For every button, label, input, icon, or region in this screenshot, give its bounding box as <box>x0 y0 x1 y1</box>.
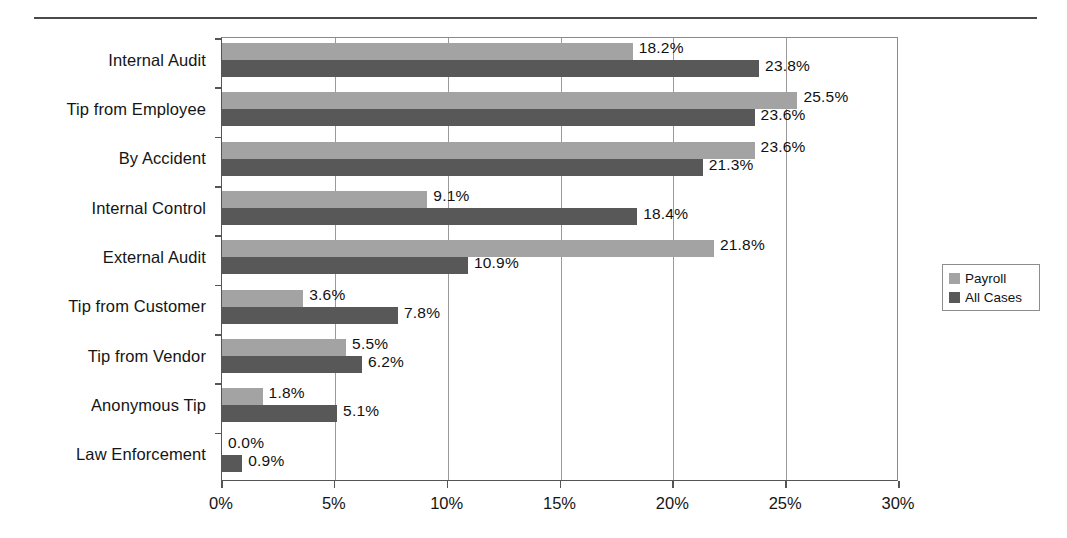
bar-all-cases <box>222 405 337 422</box>
chart-page: Internal AuditTip from EmployeeBy Accide… <box>0 0 1067 538</box>
x-axis-tick <box>898 481 900 488</box>
page-top-rule <box>34 17 1037 19</box>
bar-value-label: 18.4% <box>643 205 688 223</box>
legend-swatch-icon <box>949 273 960 284</box>
legend-swatch-icon <box>949 292 960 303</box>
bar-row: 9.1%18.4% <box>222 186 897 235</box>
x-axis-ticks <box>221 481 898 489</box>
plot-area: 18.2%23.8%25.5%23.6%23.6%21.3%9.1%18.4%2… <box>221 37 898 481</box>
legend-label: All Cases <box>965 290 1022 305</box>
bar-row: 3.6%7.8% <box>222 285 897 334</box>
bar-all-cases <box>222 208 637 225</box>
bar-value-label: 9.1% <box>433 187 469 205</box>
bar-row: 25.5%23.6% <box>222 87 897 136</box>
category-label: By Accident <box>119 149 206 168</box>
bar-value-label: 10.9% <box>474 254 519 272</box>
category-label: Law Enforcement <box>76 445 206 464</box>
x-axis-tick-label: 25% <box>769 494 802 513</box>
legend-label: Payroll <box>965 271 1006 286</box>
category-label: Anonymous Tip <box>91 396 206 415</box>
bar-rows: 18.2%23.8%25.5%23.6%23.6%21.3%9.1%18.4%2… <box>222 38 897 480</box>
bar-all-cases <box>222 356 362 373</box>
bar-value-label: 21.3% <box>709 156 754 174</box>
x-axis-tick <box>672 481 674 488</box>
category-label: Tip from Vendor <box>88 347 206 366</box>
y-axis-tick <box>215 285 222 287</box>
bar-payroll <box>222 290 303 307</box>
x-axis-tick-label: 15% <box>543 494 576 513</box>
x-axis-tick-label: 5% <box>322 494 346 513</box>
category-axis-labels: Internal AuditTip from EmployeeBy Accide… <box>0 37 214 481</box>
bar-row: 1.8%5.1% <box>222 383 897 432</box>
bar-chart: Internal AuditTip from EmployeeBy Accide… <box>0 28 1067 498</box>
bar-value-label: 3.6% <box>309 286 345 304</box>
bar-value-label: 25.5% <box>803 88 848 106</box>
bar-value-label: 0.9% <box>248 452 284 470</box>
bar-all-cases <box>222 60 759 77</box>
bar-value-label: 6.2% <box>368 353 404 371</box>
x-axis-tick <box>560 481 562 488</box>
y-axis-tick <box>215 334 222 336</box>
bar-value-label: 23.8% <box>765 57 810 75</box>
bar-value-label: 18.2% <box>639 39 684 57</box>
category-label: Internal Control <box>92 199 206 218</box>
bar-row: 18.2%23.8% <box>222 38 897 87</box>
bar-payroll <box>222 339 346 356</box>
bar-value-label: 7.8% <box>404 304 440 322</box>
bar-value-label: 21.8% <box>720 236 765 254</box>
x-axis-tick <box>334 481 336 488</box>
x-axis-tick <box>221 481 223 488</box>
bar-value-label: 5.1% <box>343 402 379 420</box>
category-label: Tip from Customer <box>68 297 206 316</box>
category-label: External Audit <box>103 248 206 267</box>
x-axis-tick-label: 30% <box>881 494 914 513</box>
bar-row: 23.6%21.3% <box>222 137 897 186</box>
y-axis-tick <box>215 87 222 89</box>
bar-all-cases <box>222 159 703 176</box>
x-axis-tick <box>785 481 787 488</box>
bar-value-label: 23.6% <box>761 106 806 124</box>
x-axis-tick-label: 20% <box>656 494 689 513</box>
x-axis-labels: 0%5%10%15%20%25%30% <box>0 494 1067 520</box>
x-axis-tick <box>447 481 449 488</box>
y-axis-tick <box>215 235 222 237</box>
x-axis-tick-label: 10% <box>430 494 463 513</box>
bar-row: 5.5%6.2% <box>222 334 897 383</box>
bar-value-label: 1.8% <box>269 384 305 402</box>
bar-payroll <box>222 388 263 405</box>
legend-item: All Cases <box>949 288 1034 307</box>
bar-value-label: 23.6% <box>761 138 806 156</box>
bar-payroll <box>222 43 633 60</box>
y-axis-tick <box>215 383 222 385</box>
y-axis-tick <box>215 186 222 188</box>
bar-value-label: 5.5% <box>352 335 388 353</box>
bar-payroll <box>222 240 714 257</box>
bar-payroll <box>222 142 755 159</box>
bar-row: 0.0%0.9% <box>222 433 897 482</box>
bar-value-label: 0.0% <box>228 434 264 452</box>
category-label: Internal Audit <box>108 51 206 70</box>
category-label: Tip from Employee <box>66 100 206 119</box>
bar-payroll <box>222 92 797 109</box>
y-axis-tick <box>215 137 222 139</box>
bar-all-cases <box>222 109 755 126</box>
chart-legend: PayrollAll Cases <box>942 264 1040 311</box>
y-axis-tick <box>215 38 222 40</box>
x-axis-tick-label: 0% <box>209 494 233 513</box>
bar-all-cases <box>222 257 468 274</box>
bar-row: 21.8%10.9% <box>222 235 897 284</box>
legend-item: Payroll <box>949 269 1034 288</box>
bar-all-cases <box>222 307 398 324</box>
y-axis-tick <box>215 433 222 435</box>
bar-all-cases <box>222 455 242 472</box>
bar-payroll <box>222 191 427 208</box>
